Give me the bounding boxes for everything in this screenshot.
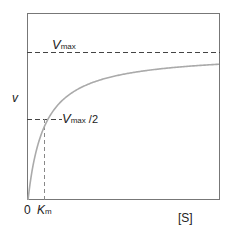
vmax-label: Vmax — [52, 38, 76, 51]
vmax-half-label: Vmax /2 — [62, 112, 98, 125]
km-label: Km — [37, 204, 52, 216]
michaelis-menten-plot — [0, 0, 229, 233]
saturation-curve — [28, 64, 219, 200]
y-axis-label: v — [12, 92, 18, 104]
x-axis-label: [S] — [178, 212, 193, 224]
origin-label: 0 — [24, 204, 31, 216]
